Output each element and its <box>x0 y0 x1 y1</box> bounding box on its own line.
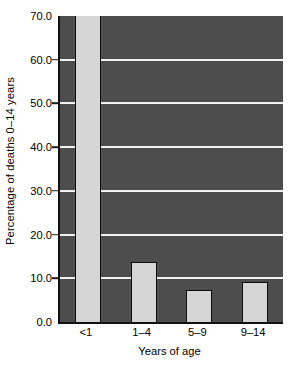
y-axis-title-text: Percentage of deaths 0–14 years <box>4 77 16 245</box>
x-axis-tick-label: 1–4 <box>132 326 151 338</box>
y-axis-tick-label: 20.0 <box>30 229 52 241</box>
y-axis-tick-label: 60.0 <box>30 54 52 66</box>
y-axis-tick-label: 0.0 <box>36 316 52 328</box>
bar <box>186 290 212 324</box>
y-axis-tick-label: 10.0 <box>30 272 52 284</box>
y-axis-tick-label: 30.0 <box>30 185 52 197</box>
y-axis-tick-labels: 0.010.020.030.040.050.060.070.0 <box>18 0 56 372</box>
plot-area <box>58 16 283 324</box>
x-axis-tick-labels: <11–45–99–14 <box>58 326 281 344</box>
bar <box>75 16 101 324</box>
bar-chart-figure: Percentage of deaths 0–14 years 0.010.02… <box>0 0 291 372</box>
y-axis-tick-label: 70.0 <box>30 10 52 22</box>
bar <box>242 282 268 324</box>
bar <box>131 262 157 324</box>
x-axis-title: Years of age <box>58 345 281 357</box>
x-axis-tick-label: 5–9 <box>188 326 207 338</box>
x-axis-tick-label: <1 <box>79 326 92 338</box>
y-axis-tick-label: 50.0 <box>30 97 52 109</box>
y-axis-title: Percentage of deaths 0–14 years <box>0 0 20 322</box>
y-axis-tick-label: 40.0 <box>30 141 52 153</box>
x-axis-tick-label: 9–14 <box>241 326 266 338</box>
